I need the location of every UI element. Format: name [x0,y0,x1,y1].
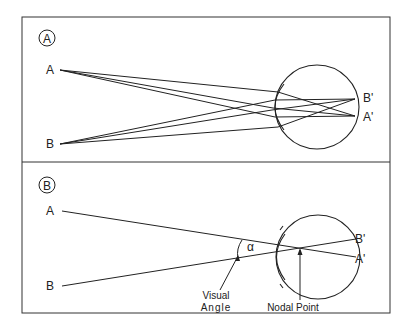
panel-a-image-bottom-label: A' [363,110,373,124]
panel-b-image-bottom-label: A' [355,252,365,266]
visual-angle-pointer [220,256,238,290]
panel-b-image-top-label: B' [355,232,365,246]
visual-angle-label-line1: Visual [202,290,229,301]
panel-b-object-bottom-label: B [46,279,54,293]
panel-a-object-bottom-label: B [46,137,54,151]
figure-frame [22,17,390,313]
visual-angle-arc [238,240,243,258]
nodal-point-label: Nodal Point [267,302,319,313]
panel-b-rays [62,211,356,300]
panel-a-image-top-label: B' [363,91,373,105]
panel-b: B A B α B' A' Visual Angle Nodal Point [39,177,365,313]
angle-symbol: α [247,240,254,254]
panel-b-object-top-label: A [46,204,54,218]
panel-a-eye-icon [275,65,359,149]
panel-a-object-top-label: A [46,63,54,77]
panel-b-eye-icon [276,215,360,299]
visual-angle-label-line2: Angle [201,302,232,313]
panel-a: A A B B' A' [39,30,373,151]
panel-a-badge: A [43,32,51,46]
eye-optics-figure: A A B B' A' B A B [0,0,407,328]
panel-a-rays [60,70,355,144]
panel-b-badge: B [43,179,51,193]
